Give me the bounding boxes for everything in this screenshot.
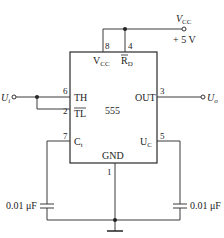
pin-number-8: 8 (105, 41, 110, 51)
vcc-terminal (182, 27, 186, 31)
pin-number-7: 7 (63, 131, 68, 141)
pin-number-1: 1 (107, 167, 112, 177)
pin-number-4: 4 (128, 41, 133, 51)
supply-label: VCC (176, 13, 192, 26)
chip-name: 555 (105, 105, 120, 116)
pin-label-rd: RD (121, 55, 133, 68)
pin-number-5: 5 (160, 131, 165, 141)
input-label: Ui (1, 92, 10, 105)
pin-label-gnd: GND (102, 150, 124, 161)
input-terminal (12, 95, 16, 99)
pin-label-ct: Ct (74, 136, 83, 149)
pin-number-6: 6 (63, 86, 68, 96)
pin5-wire (157, 141, 180, 204)
pin-label-vcc: VCC (93, 55, 110, 68)
ground-rail-wire (47, 208, 180, 220)
junction-dot-ground (113, 218, 117, 222)
pin-label-out: OUT (135, 92, 156, 103)
vcc-rail-wire (103, 29, 182, 52)
pin7-wire (47, 141, 70, 204)
pin-label-th: TH (74, 92, 87, 103)
pin-number-2: 2 (63, 106, 68, 116)
junction-dot-vcc (123, 27, 127, 31)
output-label: Uo (207, 92, 218, 105)
right-capacitor-value: 0.01 μF (190, 200, 221, 211)
supply-voltage: + 5 V (173, 34, 196, 45)
pin-number-3: 3 (160, 86, 165, 96)
left-capacitor-value: 0.01 μF (6, 200, 37, 211)
pin-label-uc: UC (140, 136, 152, 149)
circuit-diagram: 8 4 6 2 3 7 5 1 VCC RD TH TL OUT 555 Ct … (0, 0, 224, 238)
output-terminal (201, 95, 205, 99)
pin-label-tl: TL (74, 108, 86, 119)
